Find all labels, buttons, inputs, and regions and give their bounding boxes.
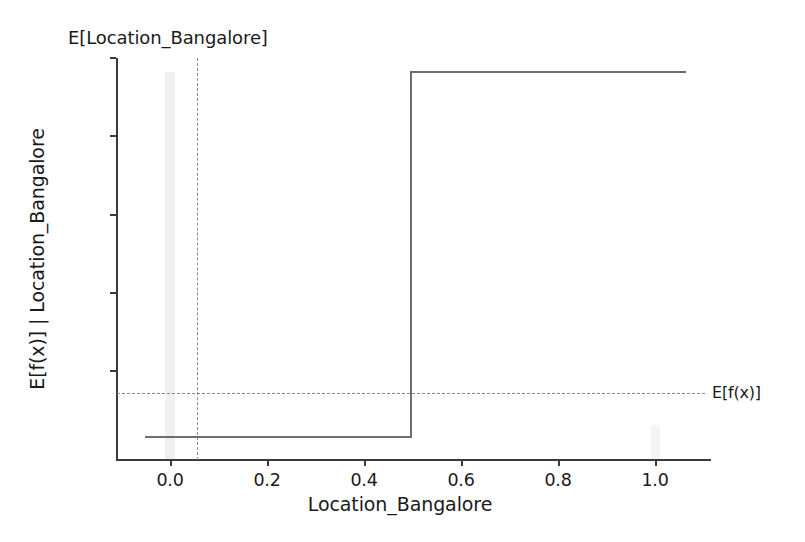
x-axis-spine (116, 459, 711, 461)
data-density-band-one (651, 425, 660, 460)
x-tick-label-0.4: 0.4 (350, 470, 377, 490)
x-tick-label-0.0: 0.0 (156, 470, 183, 490)
x-tick-label-0.8: 0.8 (544, 470, 571, 490)
y-tick-mark-9.5 (110, 370, 116, 372)
expected-feature-value-vline (197, 58, 198, 460)
x-tick-label-0.6: 0.6 (447, 470, 474, 490)
expected-feature-value-title: E[Location_Bangalore] (68, 27, 268, 48)
partial-dependence-riser (410, 71, 412, 438)
expected-value-annotation-label: E[f(x)] (712, 383, 761, 402)
x-tick-mark-0.2 (267, 460, 269, 466)
x-tick-mark-1.0 (655, 460, 657, 466)
x-tick-mark-0.0 (170, 460, 172, 466)
x-tick-mark-0.4 (364, 460, 366, 466)
y-axis-label: E[f(x)] | Location_Bangalore (26, 128, 48, 390)
x-axis-label: Location_Bangalore (0, 493, 805, 515)
x-tick-label-0.2: 0.2 (253, 470, 280, 490)
partial-dependence-upper-plateau (410, 71, 686, 73)
data-density-band-zero (165, 72, 175, 460)
y-tick-mark-9.7 (110, 214, 116, 216)
y-tick-mark-9.9 (110, 57, 116, 59)
x-tick-mark-0.8 (558, 460, 560, 466)
x-tick-mark-0.6 (461, 460, 463, 466)
y-tick-mark-9.8 (110, 135, 116, 137)
shap-partial-dependence-figure: E[Location_Bangalore] 9.9 9.8 9.7 9.6 9.… (0, 0, 805, 542)
x-tick-label-1.0: 1.0 (641, 470, 668, 490)
partial-dependence-lower-plateau (145, 436, 412, 438)
x-axis-label-text: Location_Bangalore (308, 493, 492, 515)
y-axis-spine (116, 58, 118, 461)
y-tick-mark-9.6 (110, 292, 116, 294)
